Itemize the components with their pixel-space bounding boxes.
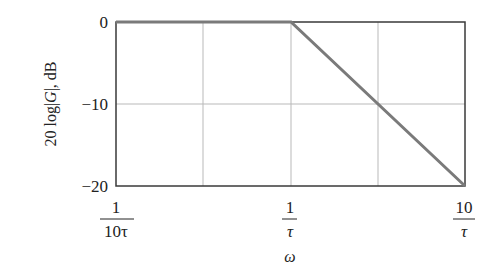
bode-magnitude-plot: 0 −10 −20 20 log|G|, dB 1 10τ 1 τ 10 τ ω (0, 0, 489, 280)
x-tick-10-over-tau: 10 τ (453, 198, 475, 241)
x-axis-label: ω (284, 248, 295, 265)
svg-text:10τ: 10τ (104, 222, 128, 241)
x-tick-1-over-tau: 1 τ (282, 198, 297, 241)
y-tick-minus10: −10 (81, 95, 108, 114)
svg-text:10: 10 (456, 198, 473, 217)
y-axis-label: 20 log|G|, dB (42, 61, 60, 146)
x-tick-1-over-10tau: 1 10τ (100, 198, 134, 241)
y-tick-minus20: −20 (81, 177, 108, 196)
svg-text:τ: τ (461, 222, 468, 241)
y-tick-0: 0 (100, 13, 109, 32)
svg-text:1: 1 (286, 198, 295, 217)
svg-text:1: 1 (112, 198, 121, 217)
svg-text:τ: τ (287, 222, 294, 241)
grid (116, 22, 465, 186)
